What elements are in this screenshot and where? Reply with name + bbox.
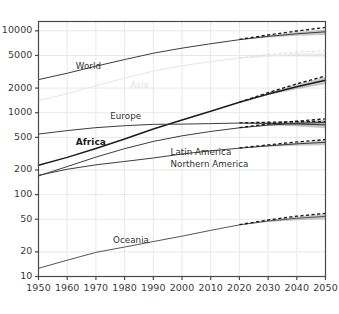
- y-axis-tick-label: 10000: [2, 24, 33, 35]
- x-axis-tick-label: 1980: [109, 282, 141, 293]
- y-axis-tick-label: 5000: [8, 49, 33, 60]
- series-label-africa: Africa: [76, 137, 106, 147]
- series-label-asia: Asia: [130, 80, 148, 90]
- y-axis-tick-label: 50: [20, 213, 32, 224]
- y-axis-tick-label: 200: [14, 163, 32, 174]
- x-axis-tick-label: 1960: [51, 282, 83, 293]
- y-axis-tick-label: 500: [14, 131, 32, 142]
- chart-canvas: [0, 0, 339, 314]
- x-axis-tick-label: 2000: [166, 282, 198, 293]
- series-label-latin-america: Latin America: [171, 147, 232, 157]
- y-axis-tick-label: 100: [14, 188, 32, 199]
- y-axis-tick-label: 2000: [8, 82, 33, 93]
- population-projection-chart: 10205010020050010002000500010000 1950196…: [0, 0, 339, 314]
- x-axis-tick-label: 2030: [252, 282, 284, 293]
- x-axis-tick-label: 2010: [195, 282, 227, 293]
- x-axis-tick-label: 1950: [23, 282, 55, 293]
- series-label-northern-america: Northern America: [171, 159, 249, 169]
- x-axis-tick-label: 1970: [80, 282, 112, 293]
- x-axis-tick-label: 2040: [281, 282, 313, 293]
- x-axis-tick-label: 1990: [137, 282, 169, 293]
- x-axis-tick-label: 2020: [223, 282, 255, 293]
- series-label-europe: Europe: [110, 111, 141, 121]
- y-axis-tick-label: 20: [20, 245, 32, 256]
- series-label-world: World: [76, 61, 101, 71]
- series-label-oceania: Oceania: [113, 235, 149, 245]
- y-axis-tick-label: 1000: [8, 106, 33, 117]
- x-axis-tick-label: 2050: [310, 282, 339, 293]
- y-axis-tick-label: 10: [20, 270, 32, 281]
